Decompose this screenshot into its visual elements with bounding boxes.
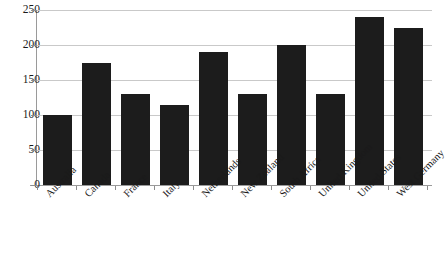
x-axis-tick-mark	[427, 186, 428, 190]
x-axis-tick-mark	[37, 186, 38, 190]
x-axis-tick-mark	[349, 186, 350, 190]
x-axis-tick-mark	[232, 186, 233, 190]
x-axis-tick-mark	[115, 186, 116, 190]
x-axis-tick-mark	[310, 186, 311, 190]
bar	[160, 105, 189, 186]
gridline	[37, 10, 432, 11]
x-axis-tick-mark	[76, 186, 77, 190]
x-axis-tick-mark	[271, 186, 272, 190]
bar	[82, 63, 111, 186]
x-axis-tick-mark	[193, 186, 194, 190]
bar	[121, 94, 150, 185]
x-axis-tick-mark	[154, 186, 155, 190]
x-axis-tick-mark	[388, 186, 389, 190]
